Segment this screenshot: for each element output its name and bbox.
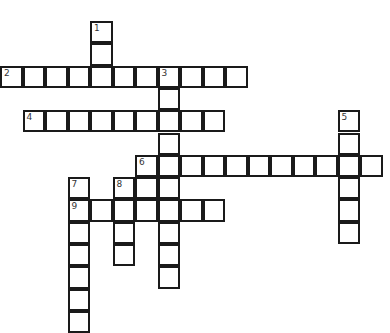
- crossword-cell[interactable]: [180, 66, 203, 88]
- crossword-cell[interactable]: [68, 66, 91, 88]
- crossword-cell[interactable]: [68, 311, 91, 333]
- crossword-cell[interactable]: 1: [90, 21, 113, 43]
- crossword-cell[interactable]: [158, 266, 181, 288]
- crossword-cell[interactable]: [113, 244, 136, 266]
- crossword-cell[interactable]: [68, 244, 91, 266]
- crossword-cell[interactable]: [68, 289, 91, 311]
- crossword-cell[interactable]: [158, 88, 181, 110]
- crossword-cell[interactable]: [203, 110, 226, 132]
- crossword-cell[interactable]: [158, 199, 181, 221]
- crossword-cell[interactable]: [315, 155, 338, 177]
- clue-number: 6: [139, 157, 145, 168]
- crossword-cell[interactable]: [338, 133, 361, 155]
- crossword-cell[interactable]: [203, 66, 226, 88]
- crossword-cell[interactable]: [180, 155, 203, 177]
- crossword-cell[interactable]: [158, 110, 181, 132]
- crossword-cell[interactable]: 2: [0, 66, 23, 88]
- crossword-cell[interactable]: [360, 155, 383, 177]
- crossword-cell[interactable]: [68, 110, 91, 132]
- crossword-cell[interactable]: [135, 177, 158, 199]
- crossword-cell[interactable]: [158, 244, 181, 266]
- crossword-cell[interactable]: [180, 110, 203, 132]
- crossword-cell[interactable]: 9: [68, 199, 91, 221]
- crossword-cell[interactable]: [338, 199, 361, 221]
- crossword-cell[interactable]: [68, 222, 91, 244]
- clue-number: 8: [117, 179, 123, 190]
- crossword-cell[interactable]: [203, 155, 226, 177]
- crossword-cell[interactable]: 4: [23, 110, 46, 132]
- crossword-cell[interactable]: [135, 199, 158, 221]
- crossword-cell[interactable]: [225, 155, 248, 177]
- crossword-cell[interactable]: [270, 155, 293, 177]
- crossword-cell[interactable]: [90, 43, 113, 65]
- crossword-cell[interactable]: [113, 222, 136, 244]
- clue-number: 4: [27, 112, 33, 123]
- clue-number: 3: [162, 68, 168, 79]
- crossword-cell[interactable]: [338, 155, 361, 177]
- crossword-cell[interactable]: [158, 155, 181, 177]
- crossword-cell[interactable]: [45, 66, 68, 88]
- crossword-cell[interactable]: [45, 110, 68, 132]
- crossword-cell[interactable]: [158, 133, 181, 155]
- crossword-cell[interactable]: [90, 66, 113, 88]
- crossword-cell[interactable]: [135, 66, 158, 88]
- clue-number: 2: [4, 68, 10, 79]
- crossword-cell[interactable]: [180, 199, 203, 221]
- crossword-cell[interactable]: [68, 266, 91, 288]
- crossword-cell[interactable]: 7: [68, 177, 91, 199]
- crossword-cell[interactable]: [203, 199, 226, 221]
- crossword-cell[interactable]: [90, 199, 113, 221]
- crossword-cell[interactable]: [225, 66, 248, 88]
- crossword-cell[interactable]: [338, 177, 361, 199]
- clue-number: 7: [72, 179, 78, 190]
- crossword-cell[interactable]: [135, 110, 158, 132]
- crossword-cell[interactable]: [158, 177, 181, 199]
- crossword-cell[interactable]: [248, 155, 271, 177]
- crossword-cell[interactable]: [158, 222, 181, 244]
- clue-number: 1: [94, 23, 100, 34]
- crossword-cell[interactable]: 8: [113, 177, 136, 199]
- crossword-cell[interactable]: [113, 66, 136, 88]
- crossword-cell[interactable]: 6: [135, 155, 158, 177]
- clue-number: 5: [342, 112, 348, 123]
- clue-number: 9: [72, 201, 78, 212]
- crossword-cell[interactable]: 3: [158, 66, 181, 88]
- crossword-cell[interactable]: [113, 110, 136, 132]
- crossword-cell[interactable]: [23, 66, 46, 88]
- crossword-cell[interactable]: [113, 199, 136, 221]
- crossword-cell[interactable]: [293, 155, 316, 177]
- crossword-cell[interactable]: 5: [338, 110, 361, 132]
- crossword-cell[interactable]: [338, 222, 361, 244]
- crossword-cell[interactable]: [90, 110, 113, 132]
